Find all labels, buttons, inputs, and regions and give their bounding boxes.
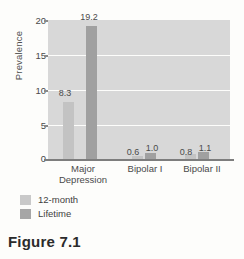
legend-swatch-12-month <box>20 195 31 205</box>
legend-item-12-month[interactable]: 12-month <box>20 193 78 206</box>
legend-label-12-month: 12-month <box>38 194 78 205</box>
gridline-15 <box>48 55 230 57</box>
datalabel-major-depression-lifetime: 19.2 <box>75 13 103 22</box>
x-category-bipolar-ii: Bipolar II <box>174 163 230 174</box>
x-category-bipolar-i: Bipolar I <box>119 163 171 174</box>
y-tick-10: 10 <box>20 86 46 96</box>
figure-caption: Figure 7.1 <box>8 233 81 250</box>
x-category-line-2: Depression <box>52 174 114 185</box>
datalabel-bipolar-ii-lifetime: 1.1 <box>194 144 216 153</box>
y-tick-15: 15 <box>20 51 46 61</box>
legend-swatch-lifetime <box>20 209 31 219</box>
y-tick-0: 0 <box>20 154 46 164</box>
x-category-line-1: Major <box>52 163 114 174</box>
chart-legend: 12-month Lifetime <box>20 193 78 221</box>
bar-chart: Prevalence 20 15 10 5 0 8.3 <box>0 0 244 186</box>
legend-item-lifetime[interactable]: Lifetime <box>20 207 78 220</box>
x-axis-line <box>44 159 234 161</box>
datalabel-major-depression-12-month: 8.3 <box>54 89 76 98</box>
datalabel-bipolar-i-lifetime: 1.0 <box>141 144 163 153</box>
bar-major-depression-lifetime[interactable] <box>86 26 97 160</box>
y-tick-5: 5 <box>20 121 46 131</box>
y-axis-ticks: 20 15 10 5 0 <box>16 0 46 160</box>
figure-container: Prevalence 20 15 10 5 0 8.3 <box>0 0 244 259</box>
y-tick-20: 20 <box>20 16 46 26</box>
x-category-major-depression: Major Depression <box>52 163 114 185</box>
gridline-5 <box>48 125 230 127</box>
bar-major-depression-12-month[interactable] <box>63 102 74 160</box>
legend-label-lifetime: Lifetime <box>38 208 71 219</box>
